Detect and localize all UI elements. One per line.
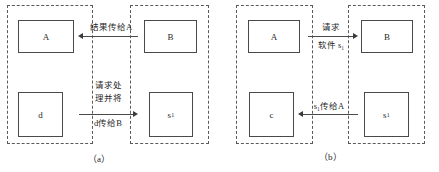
- panel-b-caption: （b）: [319, 150, 342, 163]
- panel-a-node-B: B: [144, 20, 197, 53]
- panel-a-arrow-bottom-label-line1: 请求处: [76, 80, 140, 91]
- panel-a-node-A-label: A: [43, 32, 50, 42]
- figure-canvas: A d B s1 结果传给A 请求处 理并将 d传给B （a） A c: [0, 0, 439, 172]
- panel-a-node-s1-subscript: 1: [171, 112, 174, 118]
- panel-b-arrow-top-label-above: 请求: [305, 22, 357, 33]
- panel-a-arrow-bottom-head-icon: [133, 111, 138, 117]
- panel-b-node-s1-subscript: 1: [387, 112, 390, 118]
- panel-b-arrow-top-head-icon: [353, 33, 358, 39]
- panel-b-arrow-bottom-label: s₁传给A: [299, 101, 359, 112]
- panel-a-node-s1: s1: [149, 92, 193, 137]
- panel-b-arrow-bottom: [302, 114, 358, 115]
- panel-a-node-d-label: d: [38, 110, 43, 120]
- panel-b-node-A: A: [248, 20, 300, 53]
- panel-b-node-c-label: c: [269, 110, 273, 120]
- panel-a-arrow-bottom-label-line3: d传给B: [76, 118, 140, 129]
- panel-b: A c B s1 请求 软件 s₁ s₁传给A （b）: [220, 0, 439, 172]
- panel-a-arrow-bottom-label-line2: 理并将: [76, 93, 140, 104]
- panel-b-arrow-top-label-below: 软件 s₁: [305, 40, 357, 51]
- panel-a-arrow-top-head-icon: [78, 33, 83, 39]
- panel-b-arrow-top: [308, 36, 356, 37]
- panel-b-node-s1: s1: [364, 92, 409, 137]
- panel-a-node-A: A: [18, 20, 74, 53]
- panel-b-node-B-label: B: [384, 32, 390, 42]
- panel-a: A d B s1 结果传给A 请求处 理并将 d传给B （a）: [0, 0, 220, 172]
- panel-b-node-c: c: [249, 92, 294, 137]
- panel-b-node-B: B: [361, 20, 413, 53]
- panel-a-arrow-top-label: 结果传给A: [80, 22, 142, 33]
- panel-a-node-d: d: [18, 92, 63, 137]
- panel-a-caption: （a）: [88, 152, 110, 165]
- panel-b-node-A-label: A: [271, 32, 278, 42]
- panel-a-arrow-bottom: [79, 114, 136, 115]
- panel-a-arrow-top: [82, 36, 138, 37]
- panel-a-node-B-label: B: [167, 32, 173, 42]
